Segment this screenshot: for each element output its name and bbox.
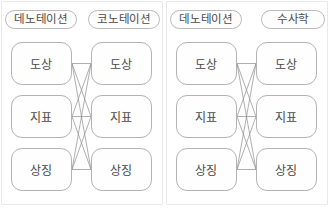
panel-left-header-denotation: 데노테이션 xyxy=(5,10,77,29)
node-left-icon: 도상 xyxy=(11,42,72,85)
diagram-figure: 데노테이션 코노테이션 xyxy=(0,0,330,208)
node-right-icon: 도상 xyxy=(91,42,152,85)
panel-right-header-row: 데노테이션 수사학 xyxy=(165,8,330,30)
panel-right-grid: 도상 지표 상징 도상 지표 상징 xyxy=(165,36,330,200)
panel-left-grid: 도상 지표 상징 도상 지표 상징 xyxy=(0,36,165,200)
panel-left-header-row: 데노테이션 코노테이션 xyxy=(0,8,165,30)
panel-right-header-denotation: 데노테이션 xyxy=(170,10,242,29)
node-left-symbol: 상징 xyxy=(176,148,237,191)
node-right-index: 지표 xyxy=(91,95,152,138)
panel-right: 데노테이션 수사학 도상 지표 상징 도상 xyxy=(165,0,330,208)
node-left-index: 지표 xyxy=(11,95,72,138)
panel-right-header-rhetoric: 수사학 xyxy=(261,10,325,29)
node-right-symbol: 상징 xyxy=(256,148,317,191)
node-right-icon: 도상 xyxy=(256,42,317,85)
node-left-icon: 도상 xyxy=(176,42,237,85)
node-right-index: 지표 xyxy=(256,95,317,138)
node-left-symbol: 상징 xyxy=(11,148,72,191)
panel-left-header-connotation: 코노테이션 xyxy=(88,10,160,29)
panel-left: 데노테이션 코노테이션 xyxy=(0,0,165,208)
node-right-symbol: 상징 xyxy=(91,148,152,191)
node-left-index: 지표 xyxy=(176,95,237,138)
